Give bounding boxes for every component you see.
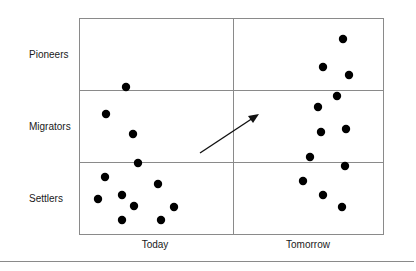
data-point-tomorrow — [338, 203, 346, 211]
data-point-today — [129, 130, 137, 138]
data-point-tomorrow — [342, 125, 350, 133]
data-point-today — [122, 83, 130, 91]
arrow-shaft — [200, 118, 253, 153]
data-point-tomorrow — [299, 177, 307, 185]
row-label-migrators: Migrators — [29, 121, 71, 132]
column-label-tomorrow: Tomorrow — [286, 239, 330, 250]
data-point-tomorrow — [319, 191, 327, 199]
data-point-tomorrow — [314, 103, 322, 111]
segment-shift-diagram — [0, 0, 416, 271]
grid — [79, 18, 384, 235]
data-point-tomorrow — [333, 92, 341, 100]
data-point-today — [134, 159, 142, 167]
data-points — [94, 35, 353, 224]
row-label-settlers: Settlers — [29, 193, 63, 204]
data-point-today — [102, 110, 110, 118]
data-point-today — [170, 203, 178, 211]
data-point-today — [154, 180, 162, 188]
data-point-today — [118, 191, 126, 199]
data-point-today — [157, 216, 165, 224]
data-point-today — [118, 216, 126, 224]
arrow-head-icon — [248, 114, 259, 123]
data-point-today — [101, 173, 109, 181]
data-point-tomorrow — [339, 35, 347, 43]
data-point-today — [130, 202, 138, 210]
data-point-tomorrow — [345, 71, 353, 79]
plot-frame — [80, 19, 384, 235]
row-label-pioneers: Pioneers — [29, 49, 68, 60]
data-point-tomorrow — [306, 153, 314, 161]
data-point-tomorrow — [319, 63, 327, 71]
shift-arrow — [200, 114, 259, 153]
column-label-today: Today — [142, 239, 169, 250]
data-point-today — [94, 195, 102, 203]
data-point-tomorrow — [341, 162, 349, 170]
data-point-tomorrow — [317, 128, 325, 136]
